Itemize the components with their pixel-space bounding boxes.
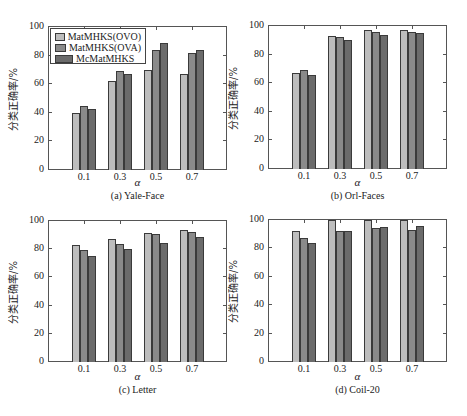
bar-mcmatmhks-0.5 — [160, 43, 168, 170]
y-tick-label: 0 — [22, 356, 44, 366]
bar-matmhks-ova--0.1 — [80, 106, 88, 170]
bar-mcmatmhks-0.3 — [124, 249, 132, 362]
y-axis-label: 分类正确率/% — [5, 242, 20, 342]
y-tick-label: 20 — [22, 328, 44, 338]
y-tick-label: 80 — [22, 50, 44, 60]
y-tick-label: 60 — [22, 78, 44, 88]
x-tick-mark — [412, 220, 413, 223]
y-tick-mark-right — [443, 276, 446, 277]
bar-matmhks-ovo--0.3 — [328, 220, 336, 362]
y-tick-mark-right — [443, 333, 446, 334]
y-tick-label: 40 — [22, 107, 44, 117]
y-tick-mark — [49, 305, 52, 306]
legend-swatch — [55, 55, 73, 63]
bar-matmhks-ova--0.1 — [300, 238, 308, 362]
y-tick-label: 0 — [22, 164, 44, 174]
bar-matmhks-ova--0.3 — [336, 231, 344, 362]
y-tick-mark — [269, 25, 272, 26]
y-tick-mark — [269, 276, 272, 277]
x-tick-mark — [376, 26, 377, 29]
y-tick-label: 100 — [242, 20, 264, 30]
y-tick-label: 60 — [22, 271, 44, 281]
y-tick-mark — [269, 82, 272, 83]
bar-mcmatmhks-0.7 — [416, 226, 424, 362]
x-tick-label: 0.1 — [69, 171, 99, 182]
x-tick-label: 0.7 — [177, 363, 207, 374]
y-axis-label: 分类正确率/% — [225, 242, 240, 342]
bar-matmhks-ovo--0.1 — [72, 245, 80, 362]
bar-matmhks-ovo--0.5 — [144, 233, 152, 362]
x-tick-label: 0.7 — [397, 170, 427, 181]
x-tick-mark — [340, 220, 341, 223]
y-tick-mark — [49, 26, 52, 27]
y-tick-mark-right — [443, 54, 446, 55]
bar-mcmatmhks-0.5 — [160, 243, 168, 362]
y-tick-mark-right — [223, 169, 226, 170]
y-tick-label: 20 — [242, 328, 264, 338]
bar-mcmatmhks-0.1 — [88, 256, 96, 362]
bar-mcmatmhks-0.3 — [344, 40, 352, 169]
legend-item: MatMHKS(OVO) — [55, 31, 141, 42]
y-tick-mark — [49, 361, 52, 362]
bar-matmhks-ova--0.5 — [372, 228, 380, 362]
x-axis-label: α — [348, 370, 368, 382]
y-tick-mark — [49, 140, 52, 141]
y-tick-label: 0 — [242, 163, 264, 173]
x-tick-mark — [304, 220, 305, 223]
y-tick-label: 100 — [22, 215, 44, 225]
y-tick-mark — [49, 83, 52, 84]
bar-mcmatmhks-0.7 — [416, 33, 424, 169]
bar-mcmatmhks-0.1 — [88, 109, 96, 170]
bar-matmhks-ovo--0.7 — [400, 30, 408, 169]
x-axis-label: α — [348, 176, 368, 188]
legend-swatch — [55, 33, 65, 41]
bar-matmhks-ova--0.7 — [408, 32, 416, 169]
y-tick-mark — [49, 112, 52, 113]
y-tick-mark-right — [223, 220, 226, 221]
bar-matmhks-ova--0.3 — [336, 37, 344, 169]
y-tick-label: 100 — [22, 21, 44, 31]
bar-matmhks-ovo--0.7 — [180, 74, 188, 170]
bar-mcmatmhks-0.7 — [196, 50, 204, 170]
x-axis-label: α — [128, 176, 148, 188]
bar-matmhks-ovo--0.1 — [292, 73, 300, 169]
bar-matmhks-ova--0.7 — [408, 230, 416, 362]
bar-mcmatmhks-0.5 — [380, 35, 388, 169]
y-tick-mark — [269, 139, 272, 140]
y-tick-mark — [269, 333, 272, 334]
bar-matmhks-ovo--0.5 — [364, 220, 372, 362]
y-tick-mark — [269, 168, 272, 169]
bar-matmhks-ovo--0.3 — [328, 36, 336, 169]
legend-swatch — [55, 44, 66, 52]
x-axis-label: α — [128, 370, 148, 382]
y-tick-mark — [49, 220, 52, 221]
x-tick-label: 0.1 — [289, 363, 319, 374]
bar-matmhks-ovo--0.1 — [72, 113, 80, 170]
y-tick-mark-right — [443, 25, 446, 26]
bar-matmhks-ova--0.7 — [188, 232, 196, 362]
bar-matmhks-ova--0.5 — [152, 234, 160, 362]
y-tick-label: 60 — [242, 271, 264, 281]
x-tick-mark — [156, 221, 157, 224]
x-tick-mark — [376, 220, 377, 223]
y-tick-label: 100 — [242, 214, 264, 224]
y-tick-label: 40 — [22, 300, 44, 310]
y-tick-label: 80 — [242, 49, 264, 59]
bar-matmhks-ovo--0.1 — [292, 231, 300, 362]
y-tick-mark — [269, 54, 272, 55]
y-tick-label: 80 — [242, 242, 264, 252]
bar-matmhks-ova--0.5 — [372, 32, 380, 169]
y-tick-mark-right — [443, 304, 446, 305]
y-axis-label: 分类正确率/% — [225, 48, 240, 148]
bar-mcmatmhks-0.7 — [196, 237, 204, 362]
bar-matmhks-ova--0.7 — [188, 53, 196, 170]
legend-item: McMatMHKS — [55, 53, 141, 64]
bar-matmhks-ovo--0.7 — [180, 230, 188, 362]
y-tick-mark — [269, 111, 272, 112]
y-tick-label: 20 — [22, 135, 44, 145]
y-tick-mark-right — [443, 361, 446, 362]
x-tick-mark — [120, 221, 121, 224]
x-tick-mark — [84, 221, 85, 224]
y-tick-mark-right — [443, 82, 446, 83]
bar-matmhks-ovo--0.3 — [108, 81, 116, 170]
